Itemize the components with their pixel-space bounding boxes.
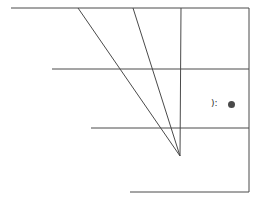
converging-diagonal-left	[78, 8, 180, 156]
converging-diagonal-right	[133, 8, 180, 156]
line-drawing-figure	[0, 0, 260, 205]
vertical-axis-line	[180, 8, 181, 156]
trapezoid-outline	[11, 8, 249, 192]
drawing-canvas: ):	[0, 0, 260, 205]
